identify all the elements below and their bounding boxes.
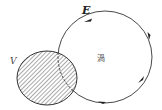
arrow-lower-right-icon bbox=[138, 76, 144, 83]
region-v-circle bbox=[17, 51, 77, 105]
vortex-label: 渦 bbox=[97, 55, 105, 63]
diagram-canvas bbox=[0, 0, 162, 110]
arrow-top-icon bbox=[84, 19, 92, 23]
region-label-v: V bbox=[10, 57, 17, 66]
field-label-e: E bbox=[82, 5, 90, 16]
